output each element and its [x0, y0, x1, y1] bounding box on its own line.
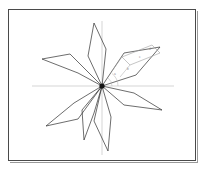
petal-west-upper — [42, 54, 102, 86]
angle-label-c: c — [139, 55, 141, 59]
petal-south — [94, 86, 111, 151]
figure-frame: abcd — [0, 0, 207, 172]
center-hub-dot — [99, 83, 104, 88]
detail-leader-2 — [112, 57, 122, 71]
detail-construction-group — [112, 45, 160, 77]
petal-northeast — [102, 47, 160, 86]
angle-arc-1 — [108, 78, 112, 86]
center-hub-group — [99, 83, 104, 88]
rosette-plot: abcd — [8, 9, 196, 161]
petal-east-lower — [102, 86, 162, 110]
petal-southwest — [46, 86, 102, 126]
angle-label-d: d — [149, 47, 151, 51]
angle-label-b: b — [127, 67, 129, 71]
petal-north — [88, 23, 106, 86]
